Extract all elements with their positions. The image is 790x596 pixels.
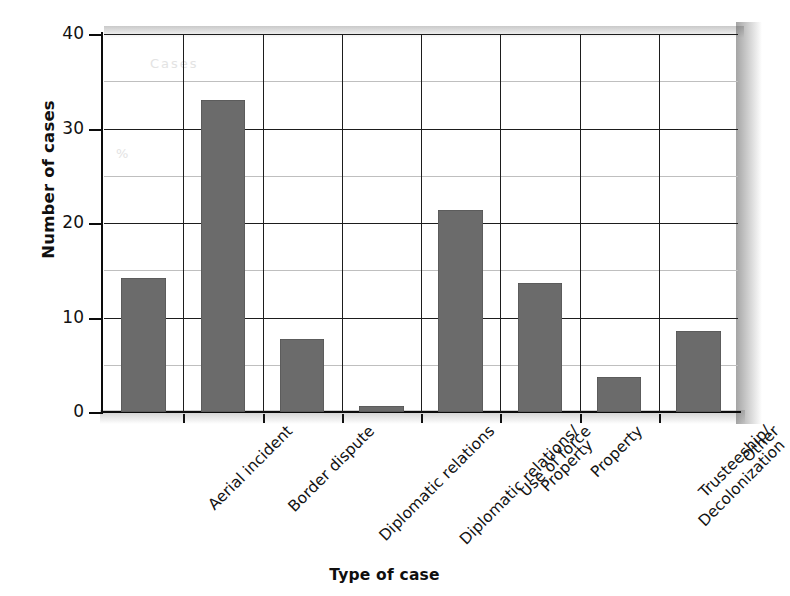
bar-4 <box>438 210 482 412</box>
gridline-x-5 <box>500 34 501 412</box>
x-tick-mark-4 <box>421 414 423 423</box>
gridline-x-6 <box>580 34 581 412</box>
scan-shadow-right <box>736 22 762 424</box>
y-tick-label-40: 40 <box>40 23 84 43</box>
gridline-x-2 <box>263 34 264 412</box>
category-label-1: Border dispute <box>284 422 379 517</box>
y-axis-title: Number of cases <box>39 90 58 270</box>
gridline-x-3 <box>342 34 343 412</box>
y-tick-label-20: 20 <box>40 212 84 232</box>
plot-area: Cases % <box>104 34 738 412</box>
y-tick-label-0: 0 <box>40 401 84 421</box>
y-tick-mark-40 <box>89 34 103 36</box>
bar-1 <box>201 100 245 412</box>
bar-2 <box>280 339 324 412</box>
bar-6 <box>597 377 641 412</box>
x-tick-mark-3 <box>342 414 344 423</box>
x-tick-mark-5 <box>500 414 502 423</box>
gridline-x-1 <box>183 34 184 412</box>
y-tick-label-30: 30 <box>40 118 84 138</box>
x-tick-mark-2 <box>263 414 265 423</box>
bar-0 <box>121 278 165 412</box>
y-tick-mark-20 <box>89 223 103 225</box>
category-label-0-line-0: Aerial incident <box>204 422 296 514</box>
bar-5 <box>518 283 562 412</box>
y-tick-mark-0 <box>89 412 103 414</box>
y-tick-mark-30 <box>89 129 103 131</box>
y-tick-label-10: 10 <box>40 307 84 327</box>
x-tick-mark-1 <box>183 414 185 423</box>
category-label-0: Aerial incident <box>204 422 297 515</box>
x-tick-mark-7 <box>659 414 661 423</box>
category-label-1-line-0: Border dispute <box>284 422 378 516</box>
category-label-3-line-1: Property <box>470 436 598 564</box>
scan-ghost-top: Cases <box>150 56 199 71</box>
x-axis-title: Type of case <box>0 566 769 584</box>
category-label-5: Property <box>587 422 647 482</box>
y-tick-mark-10 <box>89 318 103 320</box>
gridline-x-4 <box>421 34 422 412</box>
gridline-x-7 <box>659 34 660 412</box>
bar-3 <box>359 406 403 412</box>
scan-ghost-mid: % <box>116 146 130 161</box>
bar-7 <box>676 331 720 412</box>
